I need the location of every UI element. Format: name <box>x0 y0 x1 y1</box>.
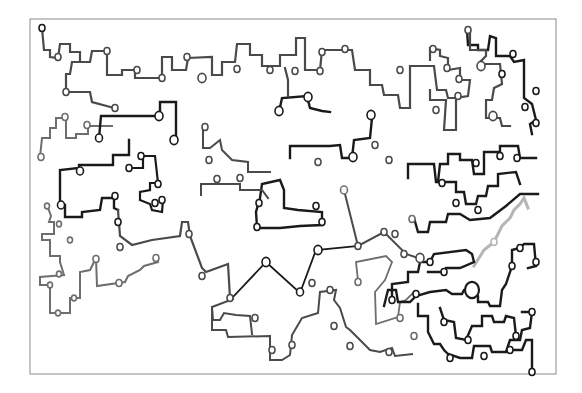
node-circle <box>441 319 447 326</box>
hand-drawn-tree-diagram <box>0 0 582 393</box>
node-circle <box>112 193 118 200</box>
node-circle <box>314 245 322 254</box>
node-circle <box>39 25 45 32</box>
node-circle <box>227 295 233 302</box>
node-circle <box>453 200 459 207</box>
node-circle <box>289 342 295 349</box>
node-circle <box>262 257 270 266</box>
node-circle <box>256 200 262 207</box>
node-circle <box>309 280 315 287</box>
node-circle <box>473 160 479 167</box>
node-circle <box>355 279 361 286</box>
node-circle <box>513 333 519 340</box>
node-circle <box>327 287 333 294</box>
node-circle <box>409 216 415 223</box>
node-circle <box>104 48 110 55</box>
node-circle <box>206 157 212 164</box>
node-circle <box>45 203 50 209</box>
path-right-lower-dark-4 <box>440 308 516 340</box>
node-circle <box>96 134 103 142</box>
node-circle <box>349 152 357 161</box>
node-circle <box>465 282 479 298</box>
path-right-lower-dark-2 <box>470 244 536 306</box>
node-circle <box>77 167 84 175</box>
node-circle <box>275 106 283 115</box>
node-circle <box>126 165 132 172</box>
node-circle <box>514 155 520 162</box>
node-circle <box>465 337 471 344</box>
node-circle <box>510 51 516 58</box>
node-circle <box>138 153 144 160</box>
path-center-box <box>290 118 372 158</box>
node-circle <box>57 221 62 227</box>
node-circle <box>522 104 528 111</box>
node-circle <box>465 27 471 34</box>
path-right-top-gray <box>410 66 456 130</box>
node-circle <box>477 61 485 70</box>
node-circle <box>529 369 535 376</box>
node-circle <box>199 273 205 280</box>
node-circle <box>313 203 319 210</box>
path-top-mid-row <box>320 50 410 108</box>
node-circle <box>184 54 190 61</box>
node-circle <box>68 237 73 243</box>
path-right-lower-dark-1 <box>384 288 470 306</box>
node-circle <box>112 105 118 112</box>
node-circle <box>214 176 220 183</box>
node-circle <box>441 269 447 276</box>
node-circle <box>55 54 61 61</box>
node-circle <box>491 239 497 246</box>
node-circle <box>341 186 348 194</box>
node-circle <box>389 297 395 304</box>
node-circle <box>475 207 481 214</box>
node-circle <box>529 309 535 316</box>
path-lower-mid-run <box>212 290 412 360</box>
node-circle <box>433 107 439 114</box>
node-circle <box>392 231 398 238</box>
node-circle <box>202 124 208 131</box>
node-circle <box>267 67 273 74</box>
node-circle <box>153 255 159 262</box>
node-circle <box>48 282 53 288</box>
node-circle <box>186 231 192 238</box>
node-circle <box>304 92 312 101</box>
node-circle <box>455 93 461 100</box>
path-light-cluster <box>356 256 414 324</box>
node-circle <box>401 251 407 258</box>
node-circle <box>355 243 361 250</box>
node-circle <box>155 111 163 120</box>
node-circle <box>63 89 69 96</box>
node-circle <box>367 110 375 119</box>
node-circle <box>439 180 445 187</box>
path-dark-left-loop <box>60 140 129 217</box>
node-circle <box>447 355 453 362</box>
node-circle <box>237 175 243 182</box>
node-circle <box>489 111 497 120</box>
node-circle <box>319 49 325 56</box>
node-circle <box>116 280 122 287</box>
node-circle <box>292 68 298 75</box>
node-circle <box>62 114 68 121</box>
node-circle <box>386 157 392 164</box>
node-circle <box>319 219 325 226</box>
node-circle <box>533 120 539 127</box>
node-circle <box>117 244 123 251</box>
node-circle <box>152 200 158 207</box>
path-center-dark-2 <box>256 180 322 228</box>
node-circle <box>481 353 487 360</box>
path-center-stair-2 <box>201 184 268 198</box>
node-circle <box>134 67 140 74</box>
node-circle <box>397 67 403 74</box>
node-circle <box>499 71 505 78</box>
node-circle <box>507 347 513 354</box>
path-right-lower-dark-5 <box>514 340 532 372</box>
path-zigzag-diag <box>232 246 358 298</box>
node-circle <box>297 288 304 296</box>
node-circle <box>58 201 65 209</box>
node-circle <box>427 259 433 266</box>
node-circle <box>444 65 450 72</box>
path-center-stair <box>203 128 270 172</box>
node-circle <box>198 73 206 82</box>
node-circle <box>509 263 515 270</box>
path-right-light-diag <box>474 198 528 266</box>
